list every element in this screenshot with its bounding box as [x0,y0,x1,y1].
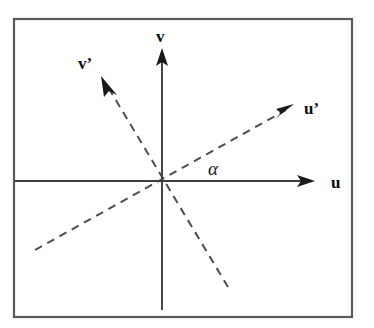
u-axis-label: u [331,173,340,192]
v-axis-label: v [156,27,165,46]
figure-root: u v u’ v’ α [0,0,374,328]
u-prime-axis-label: u’ [304,99,319,118]
angle-alpha-label: α [208,158,219,179]
coordinate-axes-diagram: u v u’ v’ α [0,0,374,328]
v-prime-axis-label: v’ [78,54,92,73]
